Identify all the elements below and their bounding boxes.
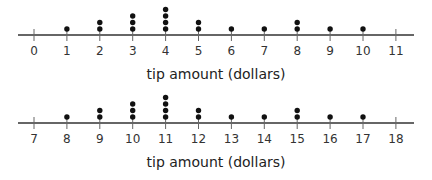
data-dot <box>97 20 102 25</box>
data-dot <box>163 114 168 119</box>
data-dot <box>64 114 69 119</box>
data-dot <box>360 114 365 119</box>
dot-plot-bottom: 789101112131415161718tip amount (dollars… <box>18 95 414 170</box>
tick-label: 10 <box>125 132 140 146</box>
tick-label: 16 <box>322 132 337 146</box>
tick-label: 11 <box>388 44 403 58</box>
tick-label: 5 <box>195 44 203 58</box>
data-dot <box>196 26 201 31</box>
data-dot <box>163 95 168 100</box>
data-dot <box>295 26 300 31</box>
data-dot <box>64 26 69 31</box>
data-dot <box>229 114 234 119</box>
tick-label: 3 <box>129 44 137 58</box>
data-dot <box>262 114 267 119</box>
tick-label: 17 <box>355 132 370 146</box>
dot-plots: 01234567891011tip amount (dollars) 78910… <box>0 0 432 180</box>
data-dot <box>295 20 300 25</box>
data-dot <box>360 26 365 31</box>
tick-label: 8 <box>63 132 71 146</box>
data-dot <box>196 108 201 113</box>
data-dot <box>97 26 102 31</box>
tick-label: 0 <box>30 44 38 58</box>
data-dot <box>196 114 201 119</box>
tick-label: 10 <box>355 44 370 58</box>
dot-plot-top: 01234567891011tip amount (dollars) <box>18 7 414 82</box>
data-dot <box>295 114 300 119</box>
x-axis-title: tip amount (dollars) <box>147 66 286 82</box>
tick-label: 9 <box>96 132 104 146</box>
data-dot <box>327 114 332 119</box>
data-dot <box>163 101 168 106</box>
x-axis-title: tip amount (dollars) <box>147 154 286 170</box>
tick-label: 18 <box>388 132 403 146</box>
data-dot <box>262 26 267 31</box>
data-dot <box>196 20 201 25</box>
tick-label: 9 <box>326 44 334 58</box>
tick-label: 8 <box>293 44 301 58</box>
data-dot <box>130 114 135 119</box>
tick-label: 2 <box>96 44 104 58</box>
data-dot <box>130 101 135 106</box>
tick-label: 7 <box>30 132 38 146</box>
data-dot <box>163 108 168 113</box>
data-dot <box>163 13 168 18</box>
tick-label: 6 <box>228 44 236 58</box>
data-dot <box>97 114 102 119</box>
data-dot <box>229 26 234 31</box>
data-dot <box>163 20 168 25</box>
data-dot <box>130 26 135 31</box>
tick-label: 11 <box>158 132 173 146</box>
tick-label: 12 <box>191 132 206 146</box>
tick-label: 15 <box>290 132 305 146</box>
tick-label: 14 <box>257 132 272 146</box>
tick-label: 4 <box>162 44 170 58</box>
data-dot <box>130 20 135 25</box>
data-dot <box>295 108 300 113</box>
data-dot <box>130 108 135 113</box>
data-dot <box>163 26 168 31</box>
data-dot <box>130 13 135 18</box>
data-dot <box>163 7 168 12</box>
tick-label: 7 <box>260 44 268 58</box>
data-dot <box>97 108 102 113</box>
tick-label: 1 <box>63 44 71 58</box>
data-dot <box>327 26 332 31</box>
tick-label: 13 <box>224 132 239 146</box>
